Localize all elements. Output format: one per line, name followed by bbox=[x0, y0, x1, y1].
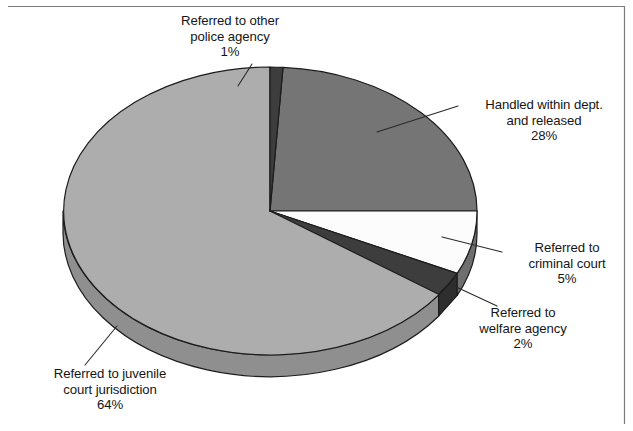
slice-percent-other-police: 1% bbox=[141, 44, 319, 60]
slice-label-welfare-agency-line1: Referred to bbox=[491, 305, 556, 320]
slice-label-handled-line2: and released bbox=[506, 113, 581, 128]
slice-label-other-police: Referred to other police agency 1% bbox=[141, 13, 319, 60]
leader-juvenile-court bbox=[85, 326, 117, 365]
pie-chart-page: Referred to other police agency 1% Handl… bbox=[0, 0, 633, 431]
leader-welfare-agency bbox=[452, 285, 497, 306]
slice-label-criminal-court-line1: Referred to bbox=[535, 240, 600, 255]
pie-top-faces bbox=[64, 67, 477, 355]
slice-label-other-police-line1: Referred to other bbox=[181, 13, 279, 28]
slice-label-criminal-court-line2: criminal court bbox=[528, 256, 605, 271]
slice-label-handled: Handled within dept. and released 28% bbox=[462, 97, 626, 144]
slice-label-other-police-line2: police agency bbox=[190, 29, 269, 44]
slice-label-juvenile-court: Referred to juvenile court jurisdiction … bbox=[12, 366, 208, 413]
slice-label-welfare-agency-line2: welfare agency bbox=[479, 321, 566, 336]
slice-label-criminal-court: Referred to criminal court 5% bbox=[505, 240, 629, 287]
pie-slice-handled bbox=[270, 67, 477, 211]
slice-percent-handled: 28% bbox=[462, 128, 626, 144]
slice-label-handled-line1: Handled within dept. bbox=[485, 97, 603, 112]
slice-label-juvenile-court-line1: Referred to juvenile bbox=[54, 366, 166, 381]
slice-label-juvenile-court-line2: court jurisdiction bbox=[63, 382, 156, 397]
slice-percent-juvenile-court: 64% bbox=[12, 397, 208, 413]
slice-percent-welfare-agency: 2% bbox=[440, 336, 606, 352]
slice-percent-criminal-court: 5% bbox=[505, 271, 629, 287]
slice-label-welfare-agency: Referred to welfare agency 2% bbox=[440, 305, 606, 352]
